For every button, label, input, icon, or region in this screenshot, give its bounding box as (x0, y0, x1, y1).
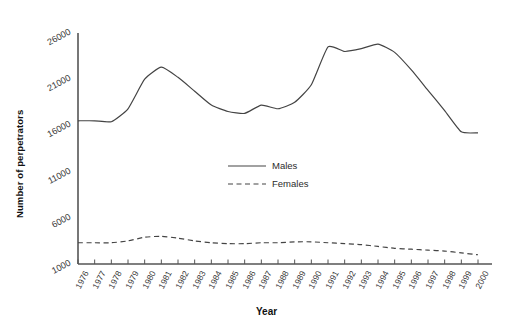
chart-container: Number of perpetrators Year 100060001100… (0, 0, 506, 336)
series-line-females (78, 236, 478, 254)
x-axis-title: Year (256, 306, 277, 317)
legend-label-females: Females (272, 178, 308, 189)
series-line-males (78, 44, 478, 133)
chart-axes (78, 33, 492, 264)
legend-label-males: Males (272, 160, 297, 171)
